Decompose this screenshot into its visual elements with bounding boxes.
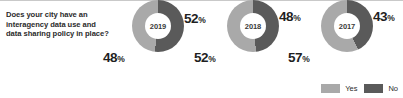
legend-label-yes: Yes bbox=[345, 84, 357, 93]
donut-year-label-2019: 2019 bbox=[150, 22, 166, 31]
donut-center-2019: 2019 bbox=[145, 13, 171, 39]
donut-chart-2019: 2019 bbox=[132, 0, 184, 52]
donut-group-2019: 2019 52% 48% bbox=[132, 0, 202, 98]
legend-label-no: No bbox=[388, 84, 398, 93]
legend-item-yes[interactable]: Yes bbox=[321, 84, 357, 93]
donut-year-label-2017: 2017 bbox=[339, 22, 355, 31]
percent-no-2018: 48% bbox=[279, 9, 300, 24]
legend-swatch-yes-icon bbox=[321, 84, 340, 93]
donut-year-label-2018: 2018 bbox=[245, 22, 261, 31]
donut-group-2018: 2018 48% 52% bbox=[227, 0, 297, 98]
donut-center-2018: 2018 bbox=[240, 13, 266, 39]
percent-no-2017: 43% bbox=[373, 9, 394, 24]
legend-swatch-no-icon bbox=[364, 84, 383, 93]
donut-chart-2018: 2018 bbox=[227, 0, 279, 52]
legend: Yes No bbox=[321, 84, 398, 93]
donut-center-2017: 2017 bbox=[334, 13, 360, 39]
legend-item-no[interactable]: No bbox=[364, 84, 398, 93]
donut-chart-2017: 2017 bbox=[321, 0, 373, 52]
percent-yes-2018: 52% bbox=[194, 50, 215, 65]
percent-yes-2017: 57% bbox=[288, 50, 309, 65]
percent-no-2019: 52% bbox=[184, 11, 205, 26]
percent-yes-2019: 48% bbox=[103, 50, 124, 65]
question-text: Does your city have an interagency data … bbox=[6, 10, 110, 39]
